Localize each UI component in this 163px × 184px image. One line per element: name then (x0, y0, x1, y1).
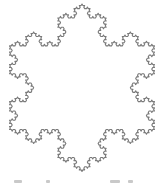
caption-text-fragment (110, 180, 120, 183)
koch-snowflake-figure (0, 0, 163, 184)
cropped-caption-text (0, 178, 163, 184)
caption-text-fragment (46, 180, 50, 183)
koch-snowflake-outline (10, 4, 155, 171)
caption-text-fragment (14, 180, 22, 183)
caption-text-fragment (128, 180, 133, 183)
